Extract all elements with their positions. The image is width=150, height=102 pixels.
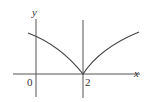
origin-label: 0 [27, 76, 33, 88]
graph: y x 0 2 [0, 0, 150, 102]
cusp-label: 2 [85, 76, 91, 88]
x-axis-label: x [133, 67, 139, 79]
y-axis-label: y [31, 6, 37, 18]
